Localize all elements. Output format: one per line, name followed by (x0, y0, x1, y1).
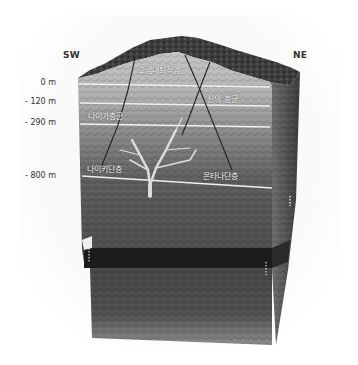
dark-stratum-band (84, 248, 272, 268)
deep-section (90, 268, 272, 345)
layer-label-right-group: 신의 층군 (207, 93, 238, 104)
depth-marker-120m: - 120 m (12, 97, 56, 106)
layer-label-left-fault: 나이키단층 (87, 163, 122, 174)
side-face (270, 72, 300, 345)
depth-marker-0m: 0 m (12, 78, 56, 87)
compass-label-ne: NE (293, 50, 307, 60)
compass-label-sw: SW (63, 50, 80, 60)
layer-label-right-fault: 몬타나단층 (203, 170, 238, 181)
depth-marker-290m: - 290 m (12, 118, 56, 127)
depth-marker-800m: - 800 m (12, 171, 56, 180)
geology-diagram: SW NE 0 m - 120 m - 290 m - 800 m 고생대퇴적암… (0, 0, 358, 365)
layer-label-left-group: 나이가층군 (88, 110, 123, 121)
layer-label-top-sedimentary: 고생대퇴적암 (138, 64, 180, 75)
